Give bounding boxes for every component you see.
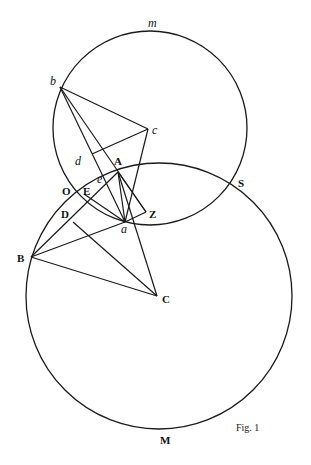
segment-B-C xyxy=(31,257,157,296)
label-c: c xyxy=(152,123,158,137)
label-C: C xyxy=(162,293,170,305)
label-S: S xyxy=(238,177,244,189)
geometry-figure: m b c d A e O E D Z a S B C M Fig. 1 xyxy=(0,0,311,465)
label-O: O xyxy=(62,185,71,197)
figure-caption: Fig. 1 xyxy=(236,422,259,433)
label-d: d xyxy=(75,154,82,168)
label-Z: Z xyxy=(149,208,156,220)
segment-c-a xyxy=(125,129,148,222)
label-M: M xyxy=(160,434,171,446)
label-D: D xyxy=(61,208,69,220)
segment-D-C xyxy=(73,222,157,296)
segment-a-Z xyxy=(125,212,146,222)
label-e: e xyxy=(97,172,103,186)
label-a: a xyxy=(121,222,127,236)
label-E: E xyxy=(83,185,90,197)
segment-b-c xyxy=(60,87,148,129)
label-B: B xyxy=(17,252,25,264)
label-b: b xyxy=(50,74,56,88)
lower-circle xyxy=(26,163,292,429)
segments xyxy=(31,87,157,296)
segment-d-c xyxy=(92,129,148,154)
label-A: A xyxy=(114,155,122,167)
label-m: m xyxy=(148,16,157,30)
